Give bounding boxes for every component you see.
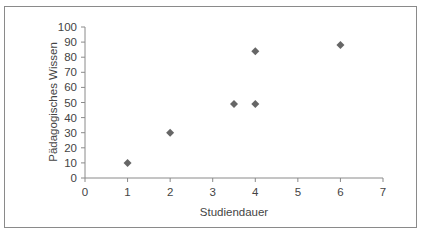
data-point-diamond-icon (251, 100, 259, 108)
data-point-diamond-icon (336, 41, 344, 49)
x-axis-title: Studiendauer (200, 206, 269, 218)
y-tick-label: 10 (64, 157, 77, 169)
x-tick-label: 1 (124, 186, 130, 198)
x-tick-label: 0 (82, 186, 88, 198)
y-tick-label: 40 (64, 112, 77, 124)
scatter-chart: 012345670102030405060708090100 Studienda… (0, 0, 425, 237)
y-tick-label: 90 (64, 36, 77, 48)
y-tick-label: 60 (64, 81, 77, 93)
x-tick-label: 6 (337, 186, 343, 198)
x-tick-label: 3 (210, 186, 216, 198)
x-tick-label: 2 (167, 186, 173, 198)
y-tick-label: 20 (64, 142, 77, 154)
y-tick-label: 100 (58, 21, 77, 33)
x-tick-label: 4 (252, 186, 259, 198)
data-point-diamond-icon (124, 159, 132, 167)
y-tick-label: 70 (64, 66, 77, 78)
y-tick-label: 0 (71, 172, 77, 184)
data-point-diamond-icon (166, 129, 174, 137)
x-tick-label: 5 (295, 186, 301, 198)
y-tick-label: 80 (64, 51, 77, 63)
axes: 012345670102030405060708090100 (58, 21, 386, 198)
y-axis-title: Pädagogisches Wissen (47, 42, 59, 162)
y-tick-label: 30 (64, 127, 77, 139)
y-tick-label: 50 (64, 97, 77, 109)
data-point-diamond-icon (251, 47, 259, 55)
x-tick-label: 7 (380, 186, 386, 198)
data-point-diamond-icon (230, 100, 238, 108)
data-points (124, 41, 345, 167)
